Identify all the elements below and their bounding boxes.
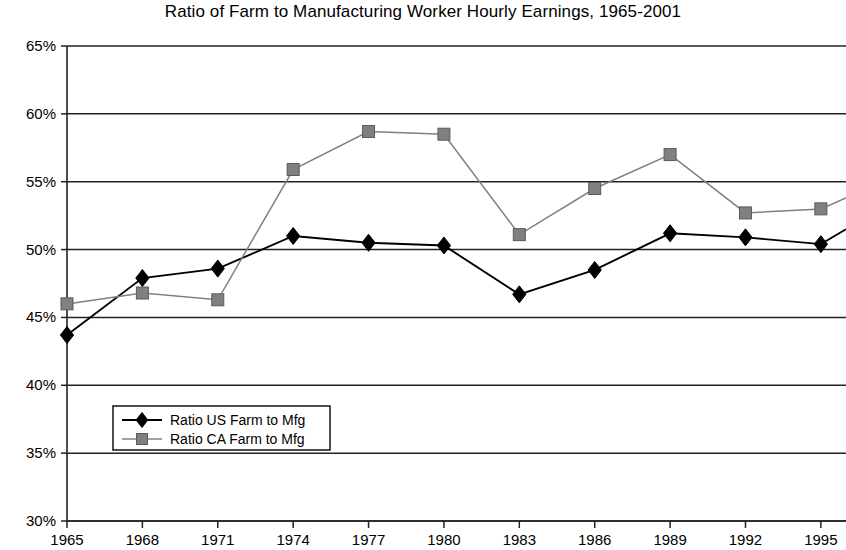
data-point-marker (589, 183, 601, 195)
data-series (61, 126, 846, 310)
data-point-marker (61, 298, 73, 310)
y-axis-tick-label: 30% (26, 512, 56, 529)
x-axis-tick-label: 1995 (804, 531, 837, 548)
data-point-marker (513, 229, 525, 241)
data-point-marker (60, 327, 73, 344)
y-axis-tick-label: 55% (26, 173, 56, 190)
y-axis-tick-label: 65% (26, 37, 56, 54)
data-point-marker (739, 207, 751, 219)
data-point-marker (136, 287, 148, 299)
chart-legend: Ratio US Farm to MfgRatio CA Farm to Mfg (113, 406, 330, 450)
data-series-group (60, 126, 846, 344)
data-point-marker (815, 203, 827, 215)
x-axis-tick-label: 1992 (729, 531, 762, 548)
x-axis-tick-label: 1980 (427, 531, 460, 548)
x-axis-tick-marks (67, 521, 821, 528)
y-axis-tick-label: 40% (26, 376, 56, 393)
x-axis-tick-labels: 1965196819711974197719801983198619891992… (50, 531, 837, 548)
y-axis-tick-label: 45% (26, 308, 56, 325)
data-series (60, 225, 846, 344)
x-axis-tick-label: 1974 (276, 531, 309, 548)
x-axis-tick-label: 1986 (578, 531, 611, 548)
x-axis-tick-label: 1977 (352, 531, 385, 548)
x-axis-tick-label: 1989 (653, 531, 686, 548)
legend-item-label: Ratio US Farm to Mfg (170, 412, 305, 428)
x-axis-tick-label: 1971 (201, 531, 234, 548)
y-axis-tick-label: 60% (26, 105, 56, 122)
legend-marker-swatch (137, 434, 148, 445)
data-point-marker (437, 237, 450, 254)
data-point-marker (513, 286, 526, 303)
data-point-marker (664, 149, 676, 161)
data-point-marker (663, 225, 676, 242)
y-axis-tick-labels: 65%60%55%50%45%40%35%30% (26, 37, 67, 529)
data-point-marker (287, 164, 299, 176)
y-axis-tick-label: 35% (26, 444, 56, 461)
y-axis-tick-label: 50% (26, 241, 56, 258)
data-point-marker (212, 294, 224, 306)
data-point-marker (362, 234, 375, 251)
data-point-marker (438, 128, 450, 140)
data-point-marker (588, 261, 601, 278)
data-point-marker (136, 270, 149, 287)
line-chart-plot: 65%60%55%50%45%40%35%30% 196519681971197… (0, 0, 846, 550)
series-line (67, 229, 846, 335)
legend-item-label: Ratio CA Farm to Mfg (170, 431, 305, 447)
data-point-marker (287, 228, 300, 245)
x-axis-tick-label: 1983 (503, 531, 536, 548)
x-axis-tick-label: 1965 (50, 531, 83, 548)
data-point-marker (739, 229, 752, 246)
series-line (67, 132, 846, 304)
chart-container: Ratio of Farm to Manufacturing Worker Ho… (0, 0, 846, 550)
x-axis-tick-label: 1968 (126, 531, 159, 548)
data-point-marker (211, 260, 224, 277)
data-point-marker (363, 126, 375, 138)
